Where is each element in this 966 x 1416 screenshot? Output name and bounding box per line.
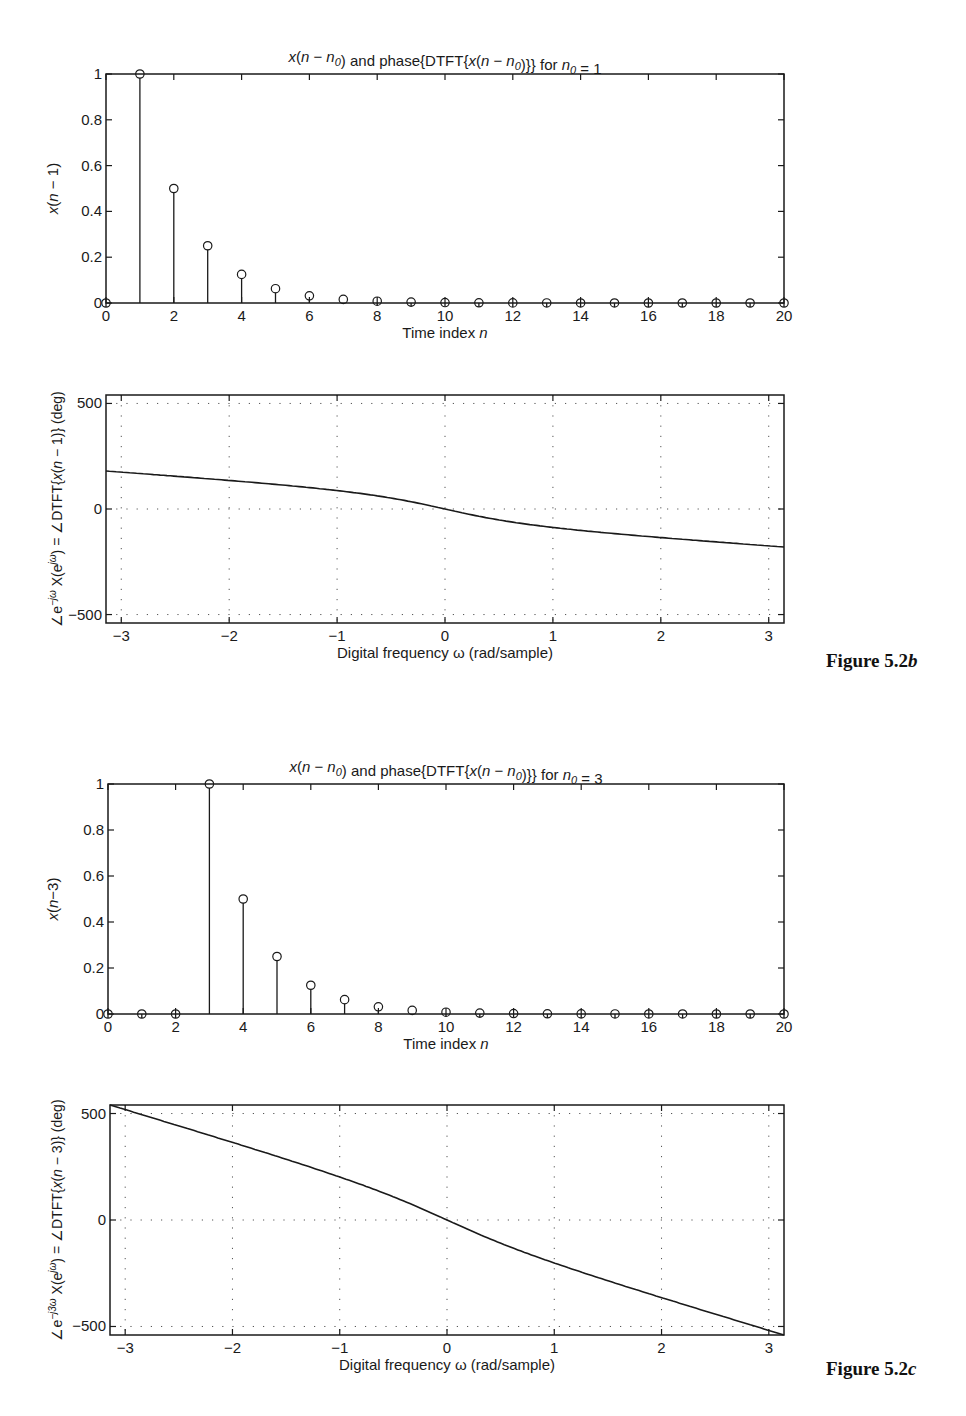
- x-tick-label: 4: [237, 307, 245, 324]
- stem-marker: [273, 952, 281, 960]
- y-tick-label: 0.8: [81, 111, 102, 128]
- plot-title: x(n − n0) and phase{DTFT{x(n − n0)}} for…: [288, 758, 602, 787]
- figure-label-prefix: Figure 5.2: [826, 650, 908, 671]
- x-tick-label: 16: [640, 1018, 657, 1035]
- x-tick-label: 0: [102, 307, 110, 324]
- plot-phase_n0_3: −3−2−10123−5000500Digital frequency ω (r…: [47, 1099, 784, 1373]
- y-tick-label: 1: [96, 775, 104, 792]
- x-tick-label: 12: [505, 1018, 522, 1035]
- tick-labels: 0246810121416182000.20.40.60.81: [83, 775, 792, 1035]
- y-axis-label: ∠e−jω X(ejω) = ∠DTFT{x(n − 1)} (deg): [47, 391, 65, 627]
- x-tick-label: −1: [329, 627, 346, 644]
- x-tick-label: 6: [307, 1018, 315, 1035]
- x-tick-label: 20: [776, 1018, 793, 1035]
- plot-title: x(n − n0) and phase{DTFT{x(n − n0)}} for…: [287, 48, 601, 77]
- x-tick-label: 10: [438, 1018, 455, 1035]
- y-tick-label: 0.6: [81, 157, 102, 174]
- x-tick-label: −2: [221, 627, 238, 644]
- stem-marker: [170, 184, 178, 192]
- x-tick-label: 3: [765, 1339, 773, 1356]
- x-tick-label: 2: [657, 627, 665, 644]
- x-tick-label: 10: [437, 307, 454, 324]
- x-axis-label: Digital frequency ω (rad/sample): [337, 644, 553, 661]
- x-axis-label: Time index n: [402, 324, 487, 341]
- x-tick-label: −2: [224, 1339, 241, 1356]
- y-tick-label: 500: [81, 1105, 106, 1122]
- x-tick-label: 18: [708, 1018, 725, 1035]
- stem-series: [102, 70, 788, 307]
- y-tick-label: 0.2: [83, 959, 104, 976]
- x-tick-label: 6: [305, 307, 313, 324]
- phase-curve: [110, 1105, 784, 1335]
- plot-phase_n0_1: −3−2−10123−5000500Digital frequency ω (r…: [47, 391, 784, 661]
- stem-marker: [204, 242, 212, 250]
- y-tick-label: 0.6: [83, 867, 104, 884]
- x-tick-label: 0: [104, 1018, 112, 1035]
- plot-stem_n0_3: 0246810121416182000.20.40.60.81Time inde…: [44, 758, 792, 1052]
- stem-marker: [271, 284, 279, 292]
- x-tick-label: −1: [331, 1339, 348, 1356]
- y-tick-label: 0: [96, 1005, 104, 1022]
- y-axis-label: ∠e−j3ω X(ejω) = ∠DTFT{x(n − 3)} (deg): [47, 1099, 65, 1340]
- x-tick-label: 1: [549, 627, 557, 644]
- x-tick-label: 0: [441, 627, 449, 644]
- x-tick-label: 0: [443, 1339, 451, 1356]
- y-tick-label: −500: [68, 606, 102, 623]
- plot-stem_n0_1: 0246810121416182000.20.40.60.81Time inde…: [44, 48, 792, 341]
- x-tick-label: −3: [117, 1339, 134, 1356]
- y-tick-label: 1: [94, 65, 102, 82]
- tick-labels: 0246810121416182000.20.40.60.81: [81, 65, 792, 324]
- y-tick-label: 0: [94, 500, 102, 517]
- x-tick-label: 1: [550, 1339, 558, 1356]
- y-tick-label: −500: [72, 1317, 106, 1334]
- y-tick-label: 0: [98, 1211, 106, 1228]
- figure-label-suffix: b: [908, 650, 918, 671]
- stem-marker: [307, 981, 315, 989]
- x-tick-label: 8: [373, 307, 381, 324]
- y-axis-label: x(n − 1): [44, 163, 61, 215]
- stem-series: [104, 780, 788, 1018]
- figure-canvas: 0246810121416182000.20.40.60.81Time inde…: [0, 0, 966, 1416]
- figure-label-suffix: c: [908, 1358, 916, 1379]
- figure-label-5-2b: Figure 5.2b: [826, 650, 917, 672]
- stem-marker: [340, 995, 348, 1003]
- y-tick-label: 0.4: [81, 202, 102, 219]
- x-axis-label: Time index n: [403, 1035, 488, 1052]
- y-tick-label: 0: [94, 294, 102, 311]
- figure-label-prefix: Figure 5.2: [826, 1358, 908, 1379]
- tick-labels: −3−2−10123−5000500: [72, 1105, 784, 1356]
- x-tick-label: 14: [572, 307, 589, 324]
- phase-curve: [106, 471, 784, 547]
- x-axis-label: Digital frequency ω (rad/sample): [339, 1356, 555, 1373]
- x-tick-label: 3: [765, 627, 773, 644]
- x-tick-label: −3: [113, 627, 130, 644]
- x-tick-label: 2: [657, 1339, 665, 1356]
- x-tick-label: 2: [171, 1018, 179, 1035]
- y-tick-label: 500: [77, 394, 102, 411]
- y-axis-label: x(n−3): [44, 878, 61, 922]
- y-tick-label: 0.2: [81, 248, 102, 265]
- x-tick-label: 2: [170, 307, 178, 324]
- y-tick-label: 0.4: [83, 913, 104, 930]
- stem-marker: [237, 270, 245, 278]
- y-tick-label: 0.8: [83, 821, 104, 838]
- x-tick-label: 16: [640, 307, 657, 324]
- x-tick-label: 4: [239, 1018, 247, 1035]
- x-tick-label: 14: [573, 1018, 590, 1035]
- stem-marker: [239, 895, 247, 903]
- x-tick-label: 20: [776, 307, 793, 324]
- x-tick-label: 12: [504, 307, 521, 324]
- x-tick-label: 8: [374, 1018, 382, 1035]
- x-tick-label: 18: [708, 307, 725, 324]
- figure-label-5-2c: Figure 5.2c: [826, 1358, 916, 1380]
- tick-labels: −3−2−10123−5000500: [68, 394, 784, 644]
